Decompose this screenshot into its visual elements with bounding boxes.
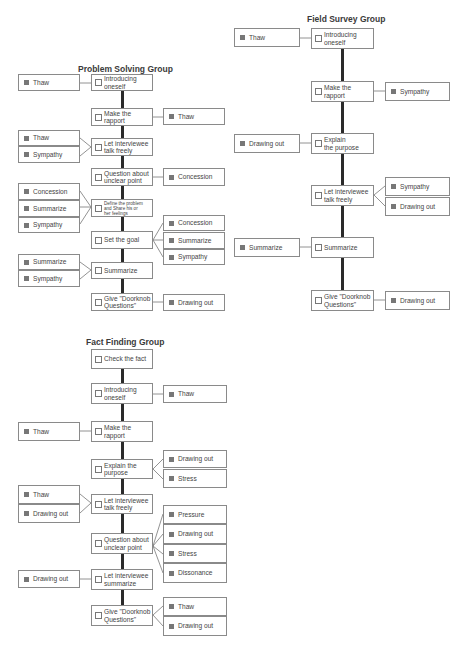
fs-right-tag[interactable]: Sympathy — [385, 177, 450, 196]
fs-step-doorknob-questions[interactable]: Give "Doorknob Questions" — [311, 290, 374, 311]
ff-right-tag[interactable]: Stress — [163, 469, 227, 488]
fs-left-tag[interactable]: Thaw — [234, 28, 300, 47]
tag-square-icon — [169, 571, 174, 576]
checkbox-icon[interactable] — [95, 540, 102, 547]
fs-step-summarize[interactable]: Summarize — [311, 237, 374, 258]
ps-step-introducing-oneself[interactable]: Introducing oneself — [91, 74, 153, 91]
ff-step-make-rapport[interactable]: Make the rapport — [91, 421, 153, 442]
ps-left-tag[interactable]: Summarize — [18, 200, 80, 217]
ps-left-tag[interactable]: Sympathy — [18, 217, 80, 233]
checkbox-icon[interactable] — [95, 501, 102, 508]
checkbox-icon[interactable] — [315, 192, 322, 199]
fs-step-explain-purpose[interactable]: Explain the purpose — [311, 133, 374, 154]
tag-square-icon — [169, 300, 174, 305]
tag-square-icon — [24, 492, 29, 497]
fs-left-tag[interactable]: Drawing out — [234, 134, 300, 153]
tag-square-icon — [24, 260, 29, 265]
ff-step-let-interviewee-talk[interactable]: Let interviewee talk freely — [91, 494, 153, 514]
ps-step-set-goal[interactable]: Set the goal — [91, 231, 153, 249]
ps-step-define-problem[interactable]: Define the problem and Share his or her … — [91, 199, 153, 217]
ps-left-tag[interactable]: Thaw — [18, 74, 80, 91]
ps-right-tag[interactable]: Drawing out — [163, 294, 225, 311]
checkbox-icon[interactable] — [95, 466, 102, 473]
tag-square-icon — [24, 577, 29, 582]
tag-square-icon — [24, 80, 29, 85]
ff-step-check-fact[interactable]: Check the fact — [91, 349, 153, 369]
ps-right-tag[interactable]: Thaw — [163, 108, 225, 125]
tag-square-icon — [169, 457, 174, 462]
tag-square-icon — [391, 184, 396, 189]
ps-left-tag[interactable]: Sympathy — [18, 146, 80, 163]
fs-step-let-interviewee-talk[interactable]: Let interviewee talk freely — [311, 185, 374, 206]
fs-step-make-rapport[interactable]: Make the rapport — [311, 81, 374, 102]
tag-square-icon — [169, 476, 174, 481]
checkbox-icon[interactable] — [95, 390, 102, 397]
checkbox-icon[interactable] — [95, 174, 102, 181]
fs-right-tag[interactable]: Drawing out — [385, 291, 450, 310]
checkbox-icon[interactable] — [315, 297, 322, 304]
ff-step-doorknob-questions[interactable]: Give "Doorknob Questions" — [91, 605, 153, 626]
ps-step-summarize[interactable]: Summarize — [91, 262, 153, 279]
tag-square-icon — [169, 238, 174, 243]
ps-left-tag[interactable]: Summarize — [18, 254, 80, 270]
ps-right-tag[interactable]: Sympathy — [163, 249, 225, 265]
checkbox-icon[interactable] — [95, 144, 102, 151]
tag-square-icon — [391, 298, 396, 303]
tag-square-icon — [24, 276, 29, 281]
checkbox-icon[interactable] — [95, 237, 102, 244]
ps-step-doorknob-questions[interactable]: Give "Doorknob Questions" — [91, 293, 153, 311]
tag-square-icon — [391, 204, 396, 209]
problem-solving-title: Problem Solving Group — [78, 64, 173, 74]
checkbox-icon[interactable] — [315, 88, 322, 95]
ps-right-tag[interactable]: Summarize — [163, 232, 225, 249]
ff-step-explain-purpose[interactable]: Explain the purpose — [91, 459, 153, 479]
checkbox-icon[interactable] — [95, 428, 102, 435]
ps-right-tag[interactable]: Concession — [163, 215, 225, 231]
ps-step-make-rapport[interactable]: Make the rapport — [91, 108, 153, 126]
checkbox-icon[interactable] — [95, 79, 102, 86]
ps-left-tag[interactable]: Sympathy — [18, 270, 80, 287]
fs-right-tag[interactable]: Drawing out — [385, 197, 450, 216]
ff-step-let-interviewee-summarize[interactable]: Let interviewee summarize — [91, 569, 153, 590]
checkbox-icon[interactable] — [95, 267, 102, 274]
checkbox-icon[interactable] — [95, 114, 102, 121]
tag-square-icon — [240, 35, 245, 40]
ff-step-introducing-oneself[interactable]: Introducing oneself — [91, 383, 153, 404]
fact-finding-title: Fact Finding Group — [86, 337, 164, 347]
checkbox-icon[interactable] — [315, 140, 322, 147]
tag-square-icon — [169, 532, 174, 537]
ff-right-tag[interactable]: Stress — [163, 544, 227, 563]
ff-right-tag[interactable]: Thaw — [163, 385, 227, 403]
ff-right-tag[interactable]: Drawing out — [163, 450, 227, 468]
ps-left-tag[interactable]: Thaw — [18, 130, 80, 146]
checkbox-icon[interactable] — [315, 35, 322, 42]
ff-right-tag[interactable]: Drawing out — [163, 616, 227, 636]
ff-step-question-unclear[interactable]: Question about unclear point — [91, 533, 153, 554]
checkbox-icon[interactable] — [95, 356, 102, 363]
ps-step-let-interviewee-talk[interactable]: Let interviewee talk freely — [91, 138, 153, 156]
ff-left-tag[interactable]: Thaw — [18, 485, 80, 504]
ps-left-tag[interactable]: Concession — [18, 183, 80, 200]
checkbox-icon[interactable] — [95, 576, 102, 583]
checkbox-icon[interactable] — [95, 612, 102, 619]
ff-left-tag[interactable]: Thaw — [18, 422, 80, 441]
tag-square-icon — [169, 624, 174, 629]
tag-square-icon — [24, 136, 29, 141]
checkbox-icon[interactable] — [95, 299, 102, 306]
ff-left-tag[interactable]: Drawing out — [18, 504, 80, 523]
ff-right-tag[interactable]: Drawing out — [163, 524, 227, 544]
ff-right-tag[interactable]: Thaw — [163, 597, 227, 616]
ff-right-tag[interactable]: Pressure — [163, 505, 227, 524]
fs-right-tag[interactable]: Sympathy — [385, 82, 450, 101]
tag-square-icon — [240, 245, 245, 250]
checkbox-icon[interactable] — [315, 244, 322, 251]
ff-left-tag[interactable]: Drawing out — [18, 570, 80, 588]
tag-square-icon — [24, 511, 29, 516]
checkbox-icon[interactable] — [95, 205, 102, 212]
tag-square-icon — [24, 189, 29, 194]
ps-step-question-unclear[interactable]: Question about unclear point — [91, 168, 153, 186]
fs-left-tag[interactable]: Summarize — [234, 238, 300, 257]
fs-step-introducing-oneself[interactable]: Introducing oneself — [311, 28, 374, 49]
ff-right-tag[interactable]: Dissonance — [163, 563, 227, 583]
ps-right-tag[interactable]: Concession — [163, 168, 225, 186]
